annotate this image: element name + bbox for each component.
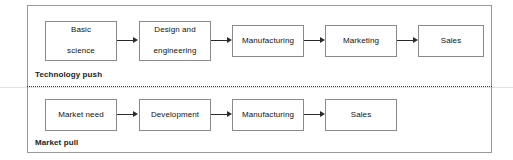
node-label: Manufacturing	[240, 36, 296, 47]
node-basic-science[interactable]: Basic science	[45, 21, 117, 61]
node-market-need[interactable]: Market need	[45, 99, 117, 131]
arrow-design-to-manufacturing	[211, 37, 232, 44]
node-label: Market need	[56, 110, 106, 121]
node-sales-top[interactable]: Sales	[418, 25, 484, 57]
node-label: Design and engineering	[150, 25, 201, 57]
node-label-line1: Design and	[152, 25, 199, 36]
node-manufacturing-bottom[interactable]: Manufacturing	[232, 99, 304, 131]
node-label-line1: Basic	[65, 25, 97, 36]
arrow-development-to-manufacturing	[211, 111, 232, 118]
section-divider	[27, 86, 492, 87]
node-label: Sales	[349, 110, 374, 121]
arrow-manufacturing-to-sales	[304, 111, 325, 118]
section-label-market-pull: Market pull	[35, 138, 78, 148]
arrow-basic-to-design	[117, 37, 138, 44]
node-label: Development	[149, 110, 201, 121]
node-marketing[interactable]: Marketing	[325, 25, 397, 57]
node-label: Basic science	[63, 25, 99, 57]
node-label: Manufacturing	[240, 110, 296, 121]
section-label-technology-push: Technology push	[35, 70, 102, 80]
arrow-need-to-development	[117, 111, 138, 118]
node-manufacturing-top[interactable]: Manufacturing	[232, 25, 304, 57]
node-label: Sales	[439, 36, 464, 47]
node-development[interactable]: Development	[139, 99, 211, 131]
node-label-line2: engineering	[152, 46, 199, 57]
diagram-canvas: Basic science Design and engineering Man…	[0, 0, 513, 160]
arrow-manufacturing-to-marketing	[304, 37, 325, 44]
node-sales-bottom[interactable]: Sales	[325, 99, 397, 131]
node-design-and-engineering[interactable]: Design and engineering	[139, 21, 211, 61]
node-label-line2: science	[65, 46, 97, 57]
node-label: Marketing	[341, 36, 381, 47]
arrow-marketing-to-sales	[397, 37, 418, 44]
